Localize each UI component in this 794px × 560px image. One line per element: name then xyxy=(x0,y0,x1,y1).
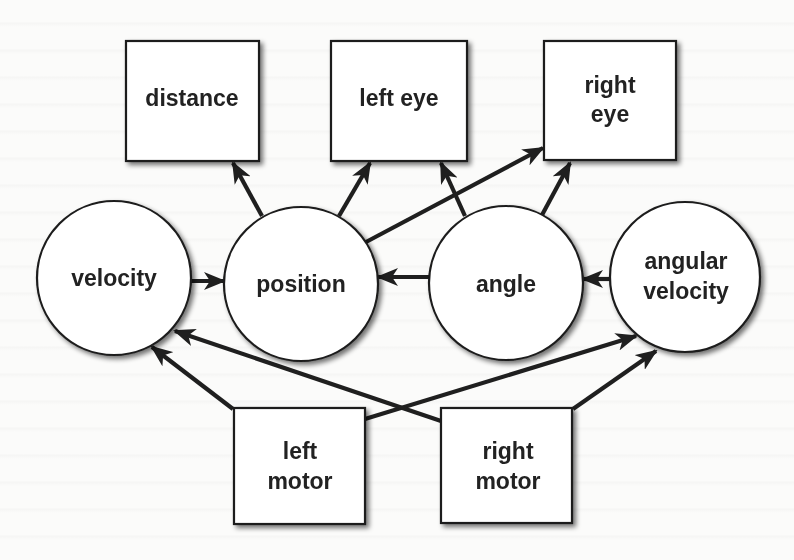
edge-left-motor-to-velocity xyxy=(152,347,233,409)
node-right-motor: right motor xyxy=(441,408,572,523)
node-angle: angle xyxy=(429,206,583,360)
edge-position-to-distance xyxy=(233,163,262,216)
causal-diagram: distance left eye right eye velocity pos… xyxy=(0,0,794,560)
node-left-motor: left motor xyxy=(234,408,365,524)
node-left-motor-label-line1: left xyxy=(283,438,318,464)
node-angular-velocity: angular velocity xyxy=(610,202,760,352)
edge-right-motor-to-angular-velocity xyxy=(573,351,656,409)
node-left-eye: left eye xyxy=(331,41,467,161)
node-left-eye-label: left eye xyxy=(359,85,438,111)
node-angle-label: angle xyxy=(476,271,536,297)
node-right-eye-label-line1: right xyxy=(584,72,635,98)
node-position-label: position xyxy=(256,271,345,297)
node-left-motor-label-line2: motor xyxy=(267,468,332,494)
node-angular-velocity-label-line2: velocity xyxy=(643,278,729,304)
node-velocity-label: velocity xyxy=(71,265,157,291)
node-right-motor-label-line1: right xyxy=(482,438,533,464)
node-right-motor-label-line2: motor xyxy=(475,468,540,494)
node-right-eye: right eye xyxy=(544,41,676,160)
node-distance: distance xyxy=(126,41,259,161)
edge-angle-to-right-eye xyxy=(542,163,570,215)
edge-position-to-left-eye xyxy=(339,163,370,216)
node-velocity: velocity xyxy=(37,201,191,355)
node-angular-velocity-label-line1: angular xyxy=(644,248,727,274)
diagram-canvas: distance left eye right eye velocity pos… xyxy=(0,0,794,560)
node-right-eye-label-line2: eye xyxy=(591,101,629,127)
node-distance-label: distance xyxy=(145,85,238,111)
node-position: position xyxy=(224,207,378,361)
